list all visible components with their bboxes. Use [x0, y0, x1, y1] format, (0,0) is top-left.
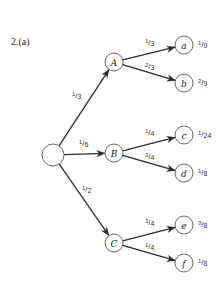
branch-prob-f: 1/4 [145, 242, 155, 251]
branch-prob-e: 3/4 [145, 218, 155, 227]
leaf-node-e-label: e [181, 221, 186, 231]
edge-root-C [59, 164, 108, 235]
joint-prob-b: 2/9 [198, 78, 208, 87]
probability-tree: ABCabcdef 1/31/61/21/31/92/32/91/41/243/… [0, 0, 222, 294]
edge-B-c [123, 137, 175, 150]
joint-prob-c: 1/24 [198, 130, 211, 139]
node-C-label: C [111, 239, 118, 249]
branch-prob-A: 1/3 [72, 91, 82, 100]
edge-A-a [123, 47, 175, 60]
leaf-node-b-label: b [181, 79, 187, 89]
branch-prob-b: 2/3 [145, 62, 155, 71]
edge-root-A [59, 70, 109, 146]
branch-prob-c: 1/4 [145, 128, 155, 137]
leaf-node-c-label: c [181, 131, 186, 141]
branch-prob-B: 1/6 [79, 139, 89, 148]
node-A-label: A [110, 58, 118, 68]
branch-prob-d: 3/4 [145, 152, 155, 161]
leaf-node-a-label: a [181, 41, 186, 51]
edge-root-B [64, 153, 105, 154]
root-node [42, 144, 64, 166]
joint-prob-e: 3/8 [198, 220, 208, 229]
node-B-label: B [110, 149, 118, 159]
joint-prob-d: 1/8 [198, 168, 208, 177]
edge-C-e [123, 227, 175, 240]
leaf-node-d-label: d [181, 169, 187, 179]
branch-prob-C: 1/2 [82, 185, 92, 194]
joint-prob-a: 1/9 [198, 40, 208, 49]
joint-prob-f: 1/8 [198, 258, 208, 267]
tree-labels: 1/31/61/21/31/92/32/91/41/243/41/83/43/8… [72, 38, 211, 267]
branch-prob-a: 1/3 [145, 38, 155, 47]
